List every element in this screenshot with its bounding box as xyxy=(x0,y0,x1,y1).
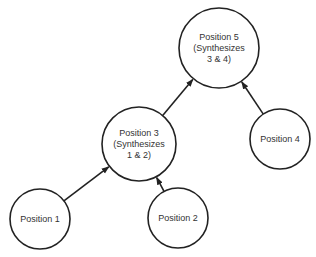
node-position-1: Position 1 xyxy=(10,189,70,249)
node-position-3: Position 3 (Synthesizes 1 & 2) xyxy=(102,107,176,181)
arrow-p1-to-p3 xyxy=(64,167,109,201)
node-position-5: Position 5 (Synthesizes 3 & 4) xyxy=(179,8,259,88)
arrow-p2-to-p3 xyxy=(157,178,164,192)
node-label: Position 5 xyxy=(199,32,239,42)
node-position-2: Position 2 xyxy=(148,188,208,248)
arrow-p3-to-p5 xyxy=(163,79,193,115)
node-label: 1 & 2) xyxy=(127,150,151,160)
node-label: 3 & 4) xyxy=(207,54,231,64)
node-label: Position 4 xyxy=(260,134,300,144)
node-label: Position 2 xyxy=(158,213,198,223)
node-label: (Synthesizes xyxy=(113,139,165,149)
node-label: Position 3 xyxy=(119,128,159,138)
synthesis-diagram: Position 5 (Synthesizes 3 & 4) Position … xyxy=(0,0,316,257)
node-label: Position 1 xyxy=(20,214,60,224)
node-position-4: Position 4 xyxy=(250,109,310,169)
arrow-p4-to-p5 xyxy=(242,82,263,114)
node-label: (Synthesizes xyxy=(193,43,245,53)
